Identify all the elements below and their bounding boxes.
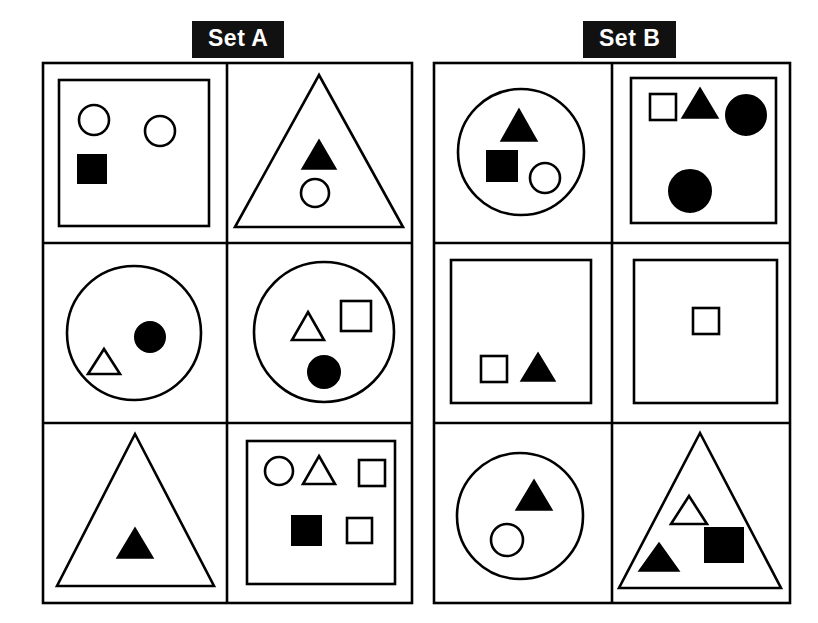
cell-a1 xyxy=(59,80,209,226)
puzzle-stage: Set A Set B xyxy=(0,0,818,623)
a6-square-open-1 xyxy=(359,460,385,486)
b5-triangle-filled-1 xyxy=(516,480,552,510)
a3-triangle-open-1 xyxy=(88,349,120,374)
cell-a6 xyxy=(247,441,395,584)
a4-circle-filled-1 xyxy=(308,356,340,388)
cell-b3 xyxy=(451,260,591,403)
b1-container-circle xyxy=(458,89,584,215)
cell-a5 xyxy=(57,434,214,586)
a1-circle-open-1 xyxy=(79,105,109,135)
b6-square-filled-1 xyxy=(705,528,743,562)
a6-circle-open-1 xyxy=(265,457,293,485)
b1-triangle-filled-1 xyxy=(501,109,537,141)
a6-triangle-open-1 xyxy=(303,456,335,484)
a5-container-triangle xyxy=(57,434,214,586)
cell-b6 xyxy=(619,433,781,588)
a3-container-circle xyxy=(67,266,201,400)
a2-triangle-filled-1 xyxy=(302,140,336,169)
a3-circle-filled-1 xyxy=(135,322,165,352)
b4-square-open-1 xyxy=(693,308,719,334)
set-b-label: Set B xyxy=(583,21,676,58)
b2-circle-filled-2 xyxy=(669,170,711,212)
b6-triangle-filled-1 xyxy=(639,543,679,571)
cell-b4 xyxy=(634,260,777,403)
b2-circle-filled-1 xyxy=(726,95,766,135)
b2-triangle-filled-1 xyxy=(682,88,718,118)
b3-square-open-1 xyxy=(481,356,507,382)
a4-square-open-1 xyxy=(341,301,371,331)
cell-a3 xyxy=(67,266,201,400)
set-a-grid xyxy=(36,56,418,608)
b2-square-open-1 xyxy=(650,94,676,120)
b5-container-circle xyxy=(457,453,583,579)
a5-triangle-filled-1 xyxy=(117,528,153,558)
a1-circle-open-2 xyxy=(145,116,175,146)
a1-container-square xyxy=(59,80,209,226)
a6-square-filled-1 xyxy=(292,516,321,545)
a2-circle-open-1 xyxy=(301,179,329,207)
cell-b1 xyxy=(458,89,584,215)
b6-triangle-open-1 xyxy=(671,496,707,524)
b1-circle-open-1 xyxy=(530,163,560,193)
cell-a4 xyxy=(254,262,394,402)
set-a-label: Set A xyxy=(192,21,284,58)
b5-circle-open-1 xyxy=(491,524,523,556)
cell-a2 xyxy=(235,75,403,227)
set-b-grid xyxy=(427,56,797,608)
b1-square-filled-1 xyxy=(487,151,517,181)
cell-b5 xyxy=(457,453,583,579)
a4-triangle-open-1 xyxy=(292,312,324,340)
b4-container-square xyxy=(634,260,777,403)
a6-square-open-2 xyxy=(347,518,372,543)
cell-b2 xyxy=(631,78,776,223)
b3-triangle-filled-1 xyxy=(521,353,555,381)
a1-square-filled-1 xyxy=(78,155,106,183)
